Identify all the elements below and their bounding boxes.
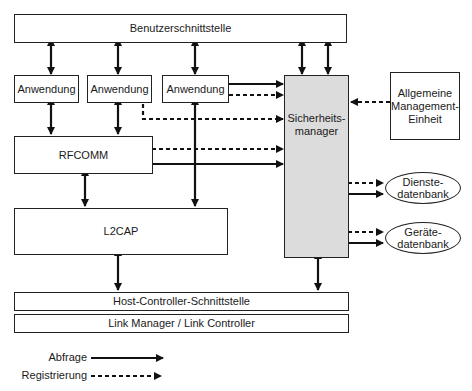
rfcomm-label: RFCOMM <box>59 149 109 162</box>
general-management-label: Allgemeine Management- Einheit <box>391 87 459 126</box>
link-manager-label: Link Manager / Link Controller <box>108 317 255 330</box>
security-manager-label: Sicherheits- manager <box>287 112 345 138</box>
device-database-label: Geräte- datenbank <box>397 226 448 250</box>
application-label: Anwendung <box>166 83 224 96</box>
legend-query-label: Abfrage <box>20 351 87 363</box>
application-label: Anwendung <box>17 83 75 96</box>
service-database-label: Dienste- datenbank <box>397 176 448 200</box>
service-database: Dienste- datenbank <box>385 172 461 204</box>
user-interface-label: Benutzerschnittstelle <box>130 22 232 35</box>
legend-registration-label: Registrierung <box>10 369 87 381</box>
application-box-2: Anwendung <box>87 75 152 103</box>
general-management-box: Allgemeine Management- Einheit <box>390 72 460 140</box>
hci-label: Host-Controller-Schnittstelle <box>113 295 250 308</box>
l2cap-box: L2CAP <box>14 208 228 255</box>
application-box-1: Anwendung <box>14 75 79 103</box>
application-box-3: Anwendung <box>162 75 229 103</box>
arrow-app2-sec-reg <box>143 104 283 119</box>
security-manager-box: Sicherheits- manager <box>284 75 349 258</box>
user-interface-layer: Benutzerschnittstelle <box>14 14 347 43</box>
link-manager-controller: Link Manager / Link Controller <box>14 314 349 333</box>
host-controller-interface: Host-Controller-Schnittstelle <box>14 292 349 311</box>
l2cap-label: L2CAP <box>104 225 139 238</box>
rfcomm-box: RFCOMM <box>14 136 153 174</box>
device-database: Geräte- datenbank <box>385 222 461 254</box>
application-label: Anwendung <box>90 83 148 96</box>
